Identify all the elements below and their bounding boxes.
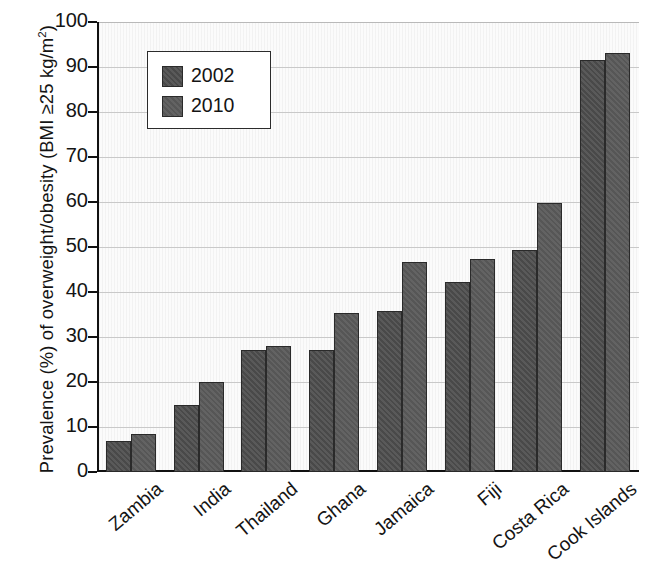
y-tick-label: 0: [0, 459, 88, 482]
y-tick-label: 60: [0, 189, 88, 212]
y-axis-title-superscript: 2: [36, 31, 48, 38]
bar-costa-rica-2010: [537, 203, 562, 472]
y-tick-mark: [88, 336, 97, 338]
y-tick-mark: [88, 156, 97, 158]
y-tick-mark: [88, 201, 97, 203]
y-tick-label: 10: [0, 414, 88, 437]
x-axis-labels: ZambiaIndiaThailandGhanaJamaicaFijiCosta…: [97, 478, 652, 582]
y-tick-label: 40: [0, 279, 88, 302]
y-tick-label: 90: [0, 54, 88, 77]
y-tick-label: 20: [0, 369, 88, 392]
bar-ghana-2002: [309, 350, 334, 472]
legend-item-2010: 2010: [162, 91, 270, 121]
y-tick-label: 70: [0, 144, 88, 167]
bar-thailand-2002: [241, 350, 266, 472]
legend-swatch-2010-icon: [162, 96, 183, 117]
bar-fiji-2002: [445, 282, 470, 472]
bar-india-2002: [174, 405, 199, 472]
y-tick-mark: [88, 66, 97, 68]
bar-costa-rica-2002: [512, 250, 537, 472]
y-tick-label: 30: [0, 324, 88, 347]
bar-thailand-2010: [266, 346, 291, 472]
y-tick-mark: [88, 21, 97, 23]
y-tick-mark: [88, 246, 97, 248]
bar-cook-islands-2002: [580, 60, 605, 472]
legend-item-2002: 2002: [162, 61, 270, 91]
legend-label-2010: 2010: [191, 96, 234, 116]
y-tick-label: 50: [0, 234, 88, 257]
legend-label-2002: 2002: [191, 66, 234, 86]
bar-jamaica-2002: [377, 311, 402, 472]
bar-jamaica-2010: [402, 262, 427, 472]
y-tick-label: 80: [0, 99, 88, 122]
legend: 2002 2010: [147, 51, 271, 129]
bar-fiji-2010: [470, 259, 495, 472]
y-tick-mark: [88, 471, 97, 473]
bar-zambia-2002: [106, 441, 131, 472]
y-tick-mark: [88, 291, 97, 293]
bar-chart: Prevalence (%) of overweight/obesity (BM…: [0, 0, 652, 582]
bar-india-2010: [199, 382, 224, 472]
bar-zambia-2010: [131, 434, 156, 472]
y-tick-mark: [88, 111, 97, 113]
bar-ghana-2010: [334, 313, 359, 472]
legend-swatch-2002-icon: [162, 66, 183, 87]
y-tick-label: 100: [0, 9, 88, 32]
bar-cook-islands-2010: [605, 53, 630, 472]
y-tick-mark: [88, 426, 97, 428]
y-tick-mark: [88, 381, 97, 383]
